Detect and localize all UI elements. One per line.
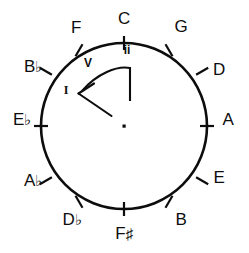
note-text-D-flat: D [63, 210, 75, 229]
note-label-F: F [71, 19, 81, 36]
roman-numeral-V: V [84, 57, 92, 69]
tick-E [196, 177, 208, 184]
flat-icon-ab: ♭ [35, 172, 42, 189]
progression-arrow-tail-barb [79, 94, 112, 117]
roman-numeral-I: I [64, 84, 69, 96]
note-label-C: C [118, 10, 130, 27]
note-label-A-flat: A♭ [24, 172, 42, 189]
note-text-A-flat: A [24, 171, 35, 190]
circle-graphics [0, 0, 249, 253]
note-label-E: E [213, 169, 224, 186]
note-text-B-flat: B [24, 57, 35, 76]
note-text-E: E [213, 168, 224, 187]
flat-icon-bb: ♭ [35, 58, 42, 75]
roman-numeral-ii: ii [124, 44, 131, 56]
note-label-G: G [174, 18, 187, 35]
circle-of-fifths-diagram: C G D A E B F♯ D♭ A♭ E♭ B♭ F ii V I [0, 0, 249, 253]
sharp-icon: ♯ [125, 225, 132, 242]
note-text-D: D [213, 60, 225, 79]
note-text-C: C [118, 9, 130, 28]
note-text-E-flat: E [13, 110, 24, 129]
note-label-F-sharp: F♯ [115, 225, 133, 242]
note-label-D-flat: D♭ [63, 211, 82, 228]
note-text-F-sharp: F [115, 224, 125, 243]
center-dot [123, 125, 126, 128]
note-label-D: D [213, 61, 225, 78]
note-text-G: G [174, 17, 187, 36]
note-label-E-flat: E♭ [13, 111, 31, 128]
tick-D [196, 68, 208, 75]
note-label-B: B [175, 211, 186, 228]
note-text-A: A [222, 110, 233, 129]
note-text-F: F [71, 18, 81, 37]
flat-icon-eb: ♭ [24, 111, 31, 128]
flat-icon-db: ♭ [75, 211, 82, 228]
note-label-A: A [222, 111, 233, 128]
note-label-B-flat: B♭ [24, 58, 42, 75]
note-text-B: B [175, 210, 186, 229]
